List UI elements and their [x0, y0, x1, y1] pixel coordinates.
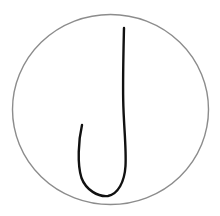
drawing-canvas	[0, 0, 220, 216]
drawing-svg	[0, 0, 220, 216]
outer-circle	[13, 15, 209, 205]
hand-drawn-stroke	[79, 28, 126, 196]
